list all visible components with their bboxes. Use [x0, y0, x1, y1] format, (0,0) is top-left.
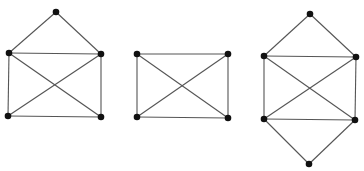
- vertex-d: [5, 113, 12, 120]
- vertex-b: [6, 50, 13, 57]
- edge-d-f: [264, 119, 309, 164]
- edge-a-b: [9, 12, 56, 53]
- vertex-b: [261, 53, 268, 60]
- vertex-a: [53, 9, 60, 16]
- edge-b-c: [9, 53, 101, 54]
- vertex-d: [225, 115, 232, 122]
- edge-e-f: [309, 120, 355, 164]
- graph-house-with-x: [5, 9, 105, 121]
- edge-b-d: [8, 53, 9, 116]
- edge-b-c: [264, 56, 356, 57]
- edge-d-e: [264, 119, 355, 120]
- vertex-b: [225, 51, 232, 58]
- graph-rectangle-with-x: [134, 51, 232, 122]
- edge-d-e: [8, 116, 101, 117]
- graph-double-house-with-x: [261, 11, 360, 168]
- vertex-a: [134, 51, 141, 58]
- vertex-c: [134, 114, 141, 121]
- graph-diagram: [0, 0, 364, 171]
- diagram-canvas: [0, 0, 364, 171]
- vertex-d: [261, 116, 268, 123]
- edge-c-d: [137, 117, 228, 118]
- vertex-c: [353, 54, 360, 61]
- edge-a-c: [310, 14, 356, 57]
- vertex-e: [98, 114, 105, 121]
- edge-a-c: [56, 12, 101, 54]
- vertex-e: [352, 117, 359, 124]
- edge-c-e: [355, 57, 356, 120]
- vertex-c: [98, 51, 105, 58]
- edge-a-b: [264, 14, 310, 56]
- vertex-a: [307, 11, 314, 18]
- vertex-f: [306, 161, 313, 168]
